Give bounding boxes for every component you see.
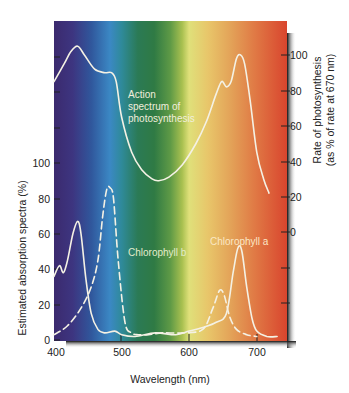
y-axis-right-title-line1: Rate of photosynthesis [311, 57, 323, 164]
chlorophyll-a-label: Chlorophyll a [210, 236, 269, 247]
y-right-tick-20: 20 [290, 191, 302, 203]
x-tick-600: 600 [180, 346, 198, 358]
x-tick-400: 400 [47, 346, 65, 358]
y-right-tick-40: 40 [290, 156, 302, 168]
y-left-tick-80: 80 [38, 193, 50, 205]
y-left-tick-60: 60 [38, 228, 50, 240]
y-axis-left-title: Estimated absorption spectra (%) [16, 180, 28, 335]
y-right-tick-60: 60 [290, 120, 302, 132]
y-axis-right-title-line2: (as % of rate at 670 nm) [324, 54, 336, 167]
y-left-tick-20: 20 [38, 299, 50, 311]
chlorophyll-b-label: Chlorophyll b [128, 247, 187, 258]
x-tick-700: 700 [248, 346, 266, 358]
x-axis-title: Wavelength (nm) [130, 373, 210, 385]
y-right-tick-80: 80 [290, 85, 302, 97]
y-left-tick-40: 40 [38, 263, 50, 275]
action-label-line2: spectrum of [128, 101, 180, 112]
absorption-action-spectrum-chart: 0 20 40 60 80 100 0 20 40 60 80 100 400 … [0, 0, 349, 393]
action-label-line3: photosynthesis [128, 113, 195, 124]
y-left-tick-100: 100 [32, 157, 50, 169]
x-tick-500: 500 [113, 346, 131, 358]
y-right-tick-0: 0 [290, 226, 296, 238]
left-tick-labels: 0 20 40 60 80 100 [32, 157, 50, 346]
action-label-line1: Action [128, 89, 156, 100]
y-right-tick-100: 100 [290, 49, 308, 61]
y-left-tick-0: 0 [44, 334, 50, 346]
